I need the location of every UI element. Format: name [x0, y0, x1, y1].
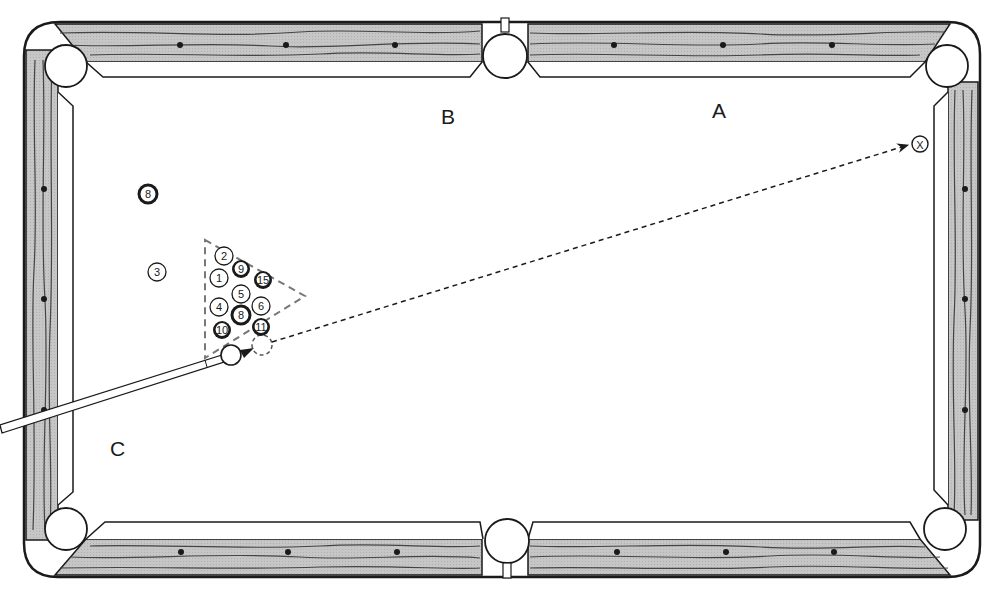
- ball-4: 4: [210, 298, 228, 316]
- cushion-top-right: [528, 62, 925, 77]
- cushion-top-left: [86, 62, 482, 77]
- diamond: [178, 549, 184, 555]
- ball-6: 6: [252, 297, 270, 315]
- ball-number-label: 10: [216, 324, 228, 336]
- ball-9: 9: [232, 260, 250, 278]
- ball-number-label: 8: [145, 188, 151, 200]
- diamond: [285, 549, 291, 555]
- ball-number-label: 4: [216, 301, 222, 313]
- region-label-c: C: [110, 437, 125, 460]
- ball-3: 3: [148, 263, 166, 281]
- cue-ball: [221, 345, 241, 365]
- ball-number-label: 5: [238, 288, 244, 300]
- region-label-a: A: [712, 99, 726, 122]
- diamond: [723, 549, 729, 555]
- pocket-bottom-middle-notch: [503, 563, 511, 578]
- ball-11: 11: [252, 318, 270, 336]
- diamond: [720, 42, 726, 48]
- pocket-top-middle: [483, 34, 527, 78]
- pocket-bottom-left: [45, 508, 87, 550]
- ball-number-label: 3: [154, 266, 160, 278]
- ball-2: 2: [215, 247, 233, 265]
- ball-number-label: 2: [221, 250, 227, 262]
- diamond: [962, 407, 968, 413]
- diamond: [962, 296, 968, 302]
- ball-5: 5: [232, 285, 250, 303]
- target-x-label: X: [916, 139, 924, 151]
- ball-15: 15: [254, 271, 272, 289]
- pocket-bottom-middle: [485, 519, 529, 563]
- diamond: [283, 42, 289, 48]
- ball-8: 8: [232, 306, 250, 324]
- cushion-left: [58, 92, 73, 505]
- ball-number-label: 8: [238, 309, 244, 321]
- diamond: [614, 549, 620, 555]
- ball-8: 8: [139, 185, 157, 203]
- ball-number-label: 6: [258, 300, 264, 312]
- ball-number-label: 1: [216, 272, 222, 284]
- cushion-right: [934, 92, 948, 505]
- diamond: [177, 42, 183, 48]
- ball-number-label: 9: [238, 263, 244, 275]
- ball-1: 1: [210, 269, 228, 287]
- ball-number-label: 15: [257, 274, 269, 286]
- pocket-top-middle-notch: [501, 18, 509, 32]
- diamond: [392, 42, 398, 48]
- region-label-b: B: [441, 105, 455, 128]
- diamond: [611, 42, 617, 48]
- diamond: [41, 296, 47, 302]
- diamond: [829, 42, 835, 48]
- ball-10: 10: [213, 321, 231, 339]
- table-outer-frame: [24, 22, 980, 577]
- diamond: [394, 549, 400, 555]
- diamond: [831, 549, 837, 555]
- diamond: [962, 186, 968, 192]
- cushion-bottom-right: [528, 522, 920, 539]
- pocket-bottom-right: [924, 508, 966, 550]
- target-marker: X: [912, 136, 928, 152]
- pocket-top-left: [45, 45, 87, 87]
- pocket-top-right: [926, 45, 968, 87]
- pool-table-diagram: A B C 2911554681011 83 X: [0, 0, 1006, 595]
- left-rail: [26, 50, 58, 540]
- cushion-bottom-left: [86, 522, 483, 539]
- ball-number-label: 11: [255, 321, 266, 333]
- diamond: [41, 186, 47, 192]
